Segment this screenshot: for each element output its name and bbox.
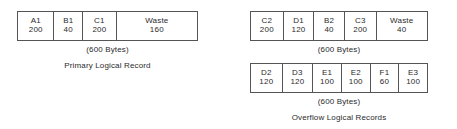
segment-byte-count: 120 bbox=[259, 78, 273, 87]
segment-byte-count: 60 bbox=[380, 78, 389, 87]
record-segment-f1: F160 bbox=[370, 64, 399, 92]
record-segment-d2: D2120 bbox=[251, 64, 282, 92]
record-segment-d3: D3120 bbox=[282, 64, 313, 92]
record-segment-d1: D1120 bbox=[283, 12, 314, 40]
record-segment-c1: C1200 bbox=[82, 12, 116, 40]
segment-byte-count: 120 bbox=[292, 26, 306, 35]
segment-byte-count: 100 bbox=[349, 78, 363, 87]
overflow-logical-record-row-1-group: C2200D1120B240C3200Waste40 (600 Bytes) bbox=[250, 11, 428, 61]
segment-byte-count: 200 bbox=[29, 26, 43, 35]
segment-byte-count: 160 bbox=[150, 26, 164, 35]
block-size-caption: (600 Bytes) bbox=[250, 45, 428, 54]
segment-byte-count: 200 bbox=[353, 26, 367, 35]
segment-byte-count: 200 bbox=[260, 26, 274, 35]
segment-byte-count: 120 bbox=[290, 78, 304, 87]
record-segment-e2: E2100 bbox=[341, 64, 370, 92]
block-size-caption: (600 Bytes) bbox=[17, 45, 198, 54]
segment-byte-count: 200 bbox=[92, 26, 106, 35]
record-segment-a1: A1200 bbox=[18, 12, 53, 40]
record-block-bar: A1200B140C1200Waste160 bbox=[17, 11, 198, 41]
record-segment-c3: C3200 bbox=[344, 12, 376, 40]
record-segment-e1: E1100 bbox=[312, 64, 341, 92]
record-block-bar: C2200D1120B240C3200Waste40 bbox=[250, 11, 428, 41]
record-segment-c2: C2200 bbox=[251, 12, 283, 40]
block-size-caption: (600 Bytes) bbox=[250, 97, 428, 106]
group-title-caption: Overflow Logical Records bbox=[250, 113, 428, 122]
segment-byte-count: 40 bbox=[64, 26, 73, 35]
segment-byte-count: 40 bbox=[324, 26, 333, 35]
record-segment-b1: B140 bbox=[53, 12, 82, 40]
record-block-bar: D2120D3120E1100E2100F160E3100 bbox=[250, 63, 428, 93]
record-segment-b2: B240 bbox=[313, 12, 344, 40]
record-segment-e3: E3100 bbox=[398, 64, 427, 92]
diagram-canvas: A1200B140C1200Waste160 (600 Bytes) Prima… bbox=[0, 0, 457, 129]
segment-byte-count: 40 bbox=[397, 26, 406, 35]
segment-byte-count: 100 bbox=[320, 78, 334, 87]
record-segment-waste: Waste40 bbox=[376, 12, 427, 40]
overflow-logical-record-row-2-group: D2120D3120E1100E2100F160E3100 (600 Bytes… bbox=[250, 63, 428, 122]
primary-logical-record-group: A1200B140C1200Waste160 (600 Bytes) Prima… bbox=[17, 11, 198, 70]
group-title-caption: Primary Logical Record bbox=[17, 61, 198, 70]
record-segment-waste: Waste160 bbox=[116, 12, 197, 40]
segment-byte-count: 100 bbox=[406, 78, 420, 87]
